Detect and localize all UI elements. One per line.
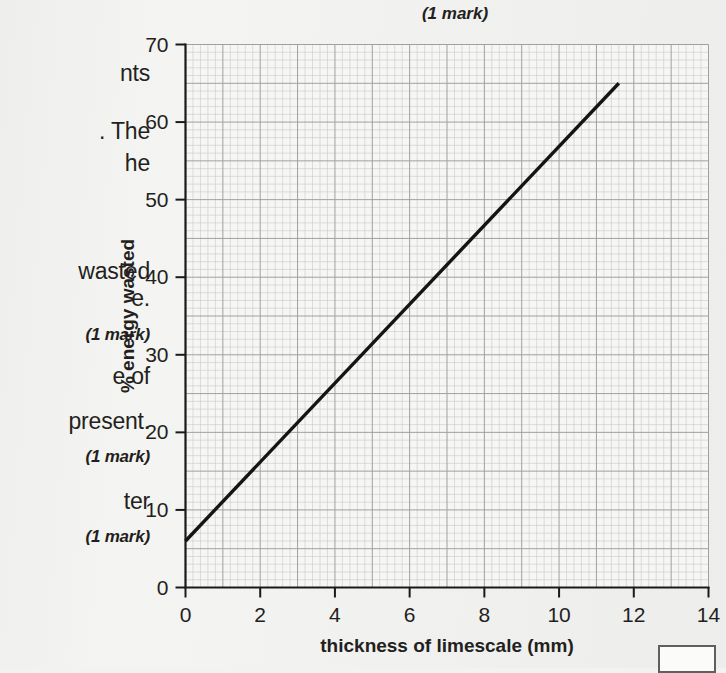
x-tick-label: 14 [697, 603, 721, 626]
y-tick-label: 0 [157, 576, 169, 599]
x-tick-label: 8 [479, 603, 491, 626]
x-tick-label: 10 [547, 603, 570, 626]
x-tick-label: 6 [404, 603, 416, 626]
x-tick-label: 2 [254, 603, 266, 626]
x-tick-label: 0 [180, 603, 192, 626]
y-tick-label: 30 [145, 343, 168, 366]
x-axis-title: thickness of limescale (mm) [320, 635, 573, 656]
y-tick-label: 50 [145, 188, 168, 211]
x-tick-label: 4 [329, 603, 341, 626]
y-tick-label: 10 [145, 498, 168, 521]
y-tick-label: 70 [145, 33, 168, 56]
x-tick-label: 12 [622, 603, 645, 626]
y-axis-title: % energy wasted [117, 239, 138, 393]
y-tick-label: 20 [145, 420, 168, 443]
answer-box[interactable] [658, 645, 716, 673]
y-tick-label: 60 [145, 110, 168, 133]
y-tick-label: 40 [145, 265, 168, 288]
